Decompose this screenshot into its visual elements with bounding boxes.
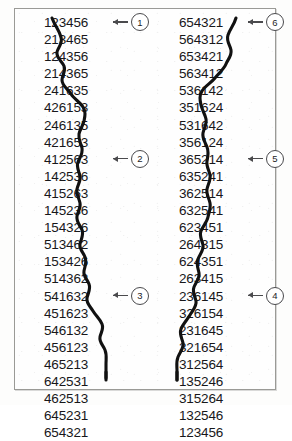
permutation-row: 546132 <box>44 322 130 339</box>
permutation-row: 132546 <box>179 407 265 424</box>
permutation-row: 653421 <box>179 48 265 65</box>
permutation-row: 564312 <box>179 31 265 48</box>
permutation-row: 624351 <box>179 253 265 270</box>
permutation-row: 321654 <box>179 339 265 356</box>
permutation-row: 326154 <box>179 305 265 322</box>
permutation-row: 356124 <box>179 134 265 151</box>
permutation-row: 246135 <box>44 117 130 134</box>
permutation-row: 426153 <box>44 99 130 116</box>
left-arrow-icon <box>248 21 263 22</box>
permutation-row: 645231 <box>44 407 130 424</box>
callout-marker-3: 3 <box>113 287 149 305</box>
permutation-row: 531642 <box>179 117 265 134</box>
left-arrow-icon <box>113 21 128 22</box>
callout-bubble: 4 <box>266 287 284 305</box>
callout-bubble: 2 <box>131 150 149 168</box>
callout-bubble: 6 <box>266 13 284 31</box>
permutation-row: 145236 <box>44 202 130 219</box>
permutation-row: 514362 <box>44 270 130 287</box>
permutation-row: 451623 <box>44 305 130 322</box>
permutation-row: 456123 <box>44 339 130 356</box>
left-arrow-icon <box>113 295 128 296</box>
permutation-row: 124356 <box>44 48 130 65</box>
permutation-row: 231645 <box>179 322 265 339</box>
left-column: 1234562134651243562143652416354261532461… <box>44 14 130 441</box>
callout-bubble: 5 <box>266 150 284 168</box>
permutation-row: 462513 <box>44 390 130 407</box>
callout-marker-4: 4 <box>248 287 284 305</box>
callout-marker-2: 2 <box>113 150 149 168</box>
permutation-row: 415263 <box>44 185 130 202</box>
permutation-row: 632541 <box>179 202 265 219</box>
permutation-row: 153426 <box>44 253 130 270</box>
left-arrow-icon <box>113 158 128 159</box>
permutation-row: 465213 <box>44 356 130 373</box>
permutation-row: 263415 <box>179 270 265 287</box>
right-column: 6543215643126534215634125361423516245316… <box>179 14 265 441</box>
permutation-row: 351624 <box>179 99 265 116</box>
permutation-row: 312564 <box>179 356 265 373</box>
permutation-row: 123456 <box>179 424 265 441</box>
callout-marker-5: 5 <box>248 150 284 168</box>
permutation-row: 154326 <box>44 219 130 236</box>
callout-marker-6: 6 <box>248 13 284 31</box>
permutation-row: 135246 <box>179 373 265 390</box>
permutation-row: 213465 <box>44 31 130 48</box>
permutation-row: 264315 <box>179 236 265 253</box>
permutation-row: 654321 <box>44 424 130 441</box>
callout-marker-1: 1 <box>113 13 149 31</box>
callout-bubble: 3 <box>131 287 149 305</box>
permutation-row: 623451 <box>179 219 265 236</box>
permutation-row: 513462 <box>44 236 130 253</box>
left-arrow-icon <box>248 158 263 159</box>
permutation-row: 142536 <box>44 168 130 185</box>
permutation-row: 642531 <box>44 373 130 390</box>
permutation-row: 563412 <box>179 65 265 82</box>
left-arrow-icon <box>248 295 263 296</box>
callout-bubble: 1 <box>131 13 149 31</box>
permutation-row: 241635 <box>44 82 130 99</box>
permutation-row: 315264 <box>179 390 265 407</box>
permutation-row: 362514 <box>179 185 265 202</box>
permutation-row: 635241 <box>179 168 265 185</box>
permutation-row: 536142 <box>179 82 265 99</box>
permutation-row: 214365 <box>44 65 130 82</box>
permutation-row: 421653 <box>44 134 130 151</box>
